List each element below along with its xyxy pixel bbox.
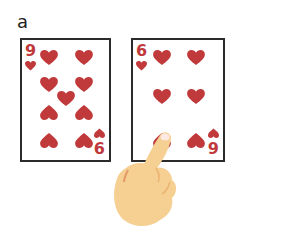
heart-icon (208, 128, 219, 138)
heart-icon (40, 132, 58, 148)
heart-icon (57, 91, 75, 107)
heart-icon (40, 77, 58, 93)
heart-icon (75, 104, 93, 120)
card-rank-bottom: 9 (208, 141, 219, 157)
heart-icon (187, 50, 205, 66)
playing-card-nine-of-hearts[interactable]: 9 6 (20, 38, 111, 162)
heart-icon (75, 77, 93, 93)
heart-icon (136, 61, 147, 71)
pointing-hand-icon (104, 128, 194, 232)
heart-icon (75, 50, 93, 66)
panel-label: a (17, 13, 28, 31)
heart-icon (153, 89, 171, 105)
heart-icon (40, 50, 58, 66)
heart-icon (153, 50, 171, 66)
heart-icon (187, 89, 205, 105)
card-rank-top: 6 (136, 43, 147, 59)
heart-icon (25, 61, 36, 71)
heart-icon (40, 104, 58, 120)
heart-icon (75, 132, 93, 148)
card-rank-top: 9 (25, 43, 36, 59)
